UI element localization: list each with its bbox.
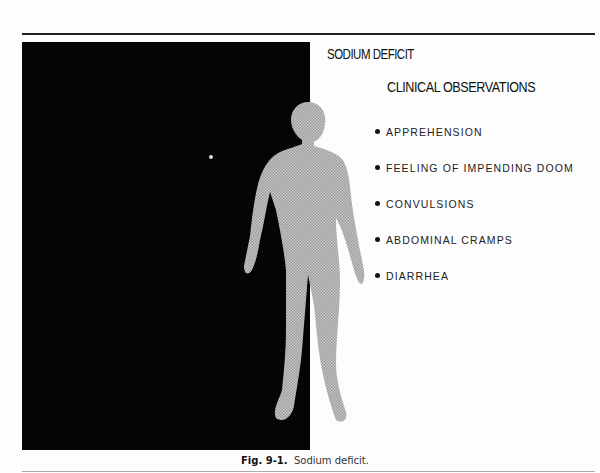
list-item: FEELING OF IMPENDING DOOM (375, 162, 574, 198)
bullet-icon (375, 165, 380, 170)
observations-list: APPREHENSION FEELING OF IMPENDING DOOM C… (375, 126, 574, 306)
bottom-rule (22, 471, 595, 472)
bullet-icon (375, 273, 380, 278)
clinical-observations-heading: CLINICAL OBSERVATIONS (387, 78, 535, 95)
list-item: ABDOMINAL CRAMPS (375, 234, 574, 270)
list-item: APPREHENSION (375, 126, 574, 162)
bullet-icon (375, 201, 380, 206)
human-silhouette-figure (190, 100, 370, 430)
bullet-icon (375, 237, 380, 242)
top-rule (22, 33, 595, 35)
caption-label: Fig. 9-1. (241, 455, 288, 466)
caption-text: Sodium deficit. (294, 455, 369, 466)
figure-title: SODIUM DEFICIT (327, 46, 414, 62)
list-item: CONVULSIONS (375, 198, 574, 234)
figure-caption: Fig. 9-1. Sodium deficit. (241, 455, 369, 466)
bullet-icon (375, 129, 380, 134)
list-item: DIARRHEA (375, 270, 574, 306)
